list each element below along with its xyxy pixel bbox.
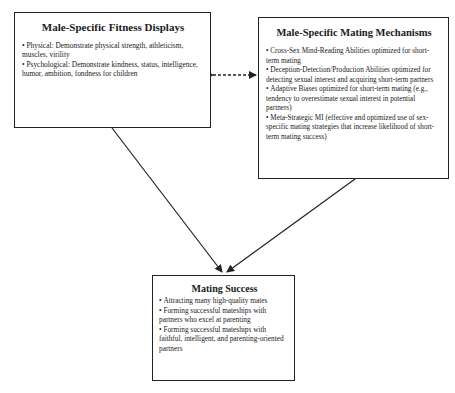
mating-success-box: Mating Success Attracting many high-qual… [152, 275, 295, 381]
mating-mechanisms-title: Male-Specific Mating Mechanisms [266, 26, 442, 39]
list-item: Deception-Detection/Production Abilities… [266, 66, 442, 85]
arrow-mechanisms-to-success [227, 179, 355, 272]
list-item: Physical: Demonstrate physical strength,… [22, 41, 204, 60]
list-item: Meta-Strategic MI (effective and optimiz… [266, 114, 442, 143]
list-item: Forming successful mateships with faithf… [159, 325, 290, 354]
arrow-fitness-to-success [112, 128, 222, 272]
fitness-displays-list: Physical: Demonstrate physical strength,… [22, 41, 204, 79]
list-item: Forming successful mateships with partne… [159, 306, 290, 325]
mating-mechanisms-box: Male-Specific Mating Mechanisms Cross-Se… [258, 17, 449, 179]
fitness-displays-title: Male-Specific Fitness Displays [22, 21, 204, 34]
list-item: Attracting many high-quality mates [159, 296, 290, 306]
list-item: Psychological: Demonstrate kindness, sta… [22, 60, 204, 79]
list-item: Cross-Sex Mind-Reading Abilities optimiz… [266, 47, 442, 66]
mating-mechanisms-list: Cross-Sex Mind-Reading Abilities optimiz… [266, 47, 442, 142]
mating-success-list: Attracting many high-quality mates Formi… [159, 296, 290, 353]
list-item: Adaptive Biases optimized for short-term… [266, 85, 442, 114]
mating-success-title: Mating Success [159, 282, 290, 295]
fitness-displays-box: Male-Specific Fitness Displays Physical:… [14, 12, 211, 128]
